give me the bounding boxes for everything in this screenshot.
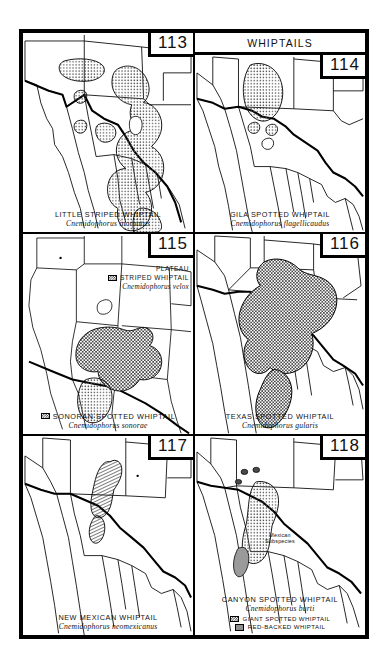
range-shape: [234, 467, 279, 576]
range-map-117: [23, 436, 193, 635]
sub-legend-row-giant: GIANT SPOTTED WHIPTAIL: [195, 615, 365, 624]
map-panel-113[interactable]: 113 LITTLE STRIPED WHIPTAIL Cnemidophoru…: [22, 32, 194, 233]
common-name-116: TEXAS SPOTTED WHIPTAIL: [195, 412, 365, 421]
plate-frame: 113 LITTLE STRIPED WHIPTAIL Cnemidophoru…: [19, 29, 369, 639]
plate-number-113: 113: [148, 33, 193, 57]
range-map-114: [195, 55, 365, 232]
common-name-114: GILA SPOTTED WHIPTAIL: [195, 210, 365, 219]
range-shape: [239, 259, 337, 428]
map-panel-117[interactable]: 117 NEW MEXICAN WHIPTAIL Cnemidophorus n…: [22, 435, 194, 636]
plate-number-115: 115: [148, 234, 193, 258]
caption-line-115: SONORAN SPOTTED WHIPTAIL: [23, 412, 193, 421]
common-name-117: NEW MEXICAN WHIPTAIL: [23, 613, 193, 622]
sub-legend-118: GIANT SPOTTED WHIPTAIL RED-BACKED WHIPTA…: [195, 615, 365, 632]
scientific-name-114: Cnemidophorus flagellicaudus: [195, 219, 365, 229]
map-grid: 113 LITTLE STRIPED WHIPTAIL Cnemidophoru…: [22, 32, 366, 636]
range-map-113: [23, 33, 193, 232]
plate-number-116: 116: [320, 234, 365, 258]
map-panel-118[interactable]: 118 Mexican Subspecies CANYON SPOTTED WH…: [194, 435, 366, 636]
map-svg-117: [23, 436, 193, 635]
range-shape: [59, 59, 164, 232]
map-svg-116: [195, 234, 365, 433]
legend-swatch-check-icon: [108, 275, 117, 282]
caption-swatch-check-icon: [41, 413, 50, 420]
common-name-118: CANYON SPOTTED WHIPTAIL: [195, 595, 365, 604]
page-background: 113 LITTLE STRIPED WHIPTAIL Cnemidophoru…: [0, 0, 388, 669]
map-panel-116[interactable]: 116 TEXAS SPOTTED WHIPTAIL Cnemidophorus…: [194, 233, 366, 434]
plate-header: WHIPTAILS: [195, 33, 365, 55]
plate-number-118: 118: [320, 436, 365, 460]
sub-legend-swatch-solid-icon: [235, 624, 244, 631]
sub-legend-row-redbacked: RED-BACKED WHIPTAIL: [195, 623, 365, 632]
plate-number-114: 114: [320, 55, 365, 79]
panel-caption-117: NEW MEXICAN WHIPTAIL Cnemidophorus neome…: [23, 613, 193, 632]
scientific-name-115: Cnemidophorus sonorae: [23, 421, 193, 431]
plate-header-label: WHIPTAILS: [247, 37, 313, 49]
map-panel-115[interactable]: 115 PLATEAU STRIPED WHIPTAIL Cnemidophor…: [22, 233, 194, 434]
map-panel-114[interactable]: WHIPTAILS: [194, 32, 366, 233]
sub-legend-label-giant: GIANT SPOTTED WHIPTAIL: [243, 615, 331, 624]
panel-caption-116: TEXAS SPOTTED WHIPTAIL Cnemidophorus gul…: [195, 412, 365, 431]
inset-legend-115: PLATEAU STRIPED WHIPTAIL Cnemidophorus v…: [108, 264, 189, 292]
map-svg-114: [195, 55, 365, 232]
map-svg-113: [23, 33, 193, 232]
panel-caption-113: LITTLE STRIPED WHIPTAIL Cnemidophorus in…: [23, 210, 193, 229]
scientific-name-116: Cnemidophorus gularis: [195, 421, 365, 431]
common-name-113: LITTLE STRIPED WHIPTAIL: [23, 210, 193, 219]
scientific-name-118: Cnemidophorus burti: [195, 604, 365, 614]
inset-line2-row: STRIPED WHIPTAIL: [108, 273, 189, 282]
inset-scientific-name: Cnemidophorus velox: [108, 283, 189, 292]
panel-caption-114: GILA SPOTTED WHIPTAIL Cnemidophorus flag…: [195, 210, 365, 229]
sub-legend-swatch-check-icon: [230, 616, 239, 623]
range-shape: [89, 460, 122, 543]
panel-caption-118: CANYON SPOTTED WHIPTAIL Cnemidophorus bu…: [195, 595, 365, 632]
range-shape: [243, 63, 282, 149]
inset-line1: PLATEAU: [108, 264, 189, 273]
map-label-mexican-subspecies: Mexican Subspecies: [257, 532, 303, 544]
plate-number-117: 117: [148, 436, 193, 460]
inset-line2: STRIPED WHIPTAIL: [120, 273, 189, 282]
scientific-name-117: Cnemidophorus neomexicanus: [23, 622, 193, 632]
sub-legend-label-redbacked: RED-BACKED WHIPTAIL: [248, 623, 326, 632]
panel-caption-115: SONORAN SPOTTED WHIPTAIL Cnemidophorus s…: [23, 412, 193, 431]
range-map-116: [195, 234, 365, 433]
common-name-115: SONORAN SPOTTED WHIPTAIL: [53, 412, 176, 421]
scientific-name-113: Cnemidophorus inornatus: [23, 219, 193, 229]
map-label-line2: Subspecies: [257, 538, 303, 544]
